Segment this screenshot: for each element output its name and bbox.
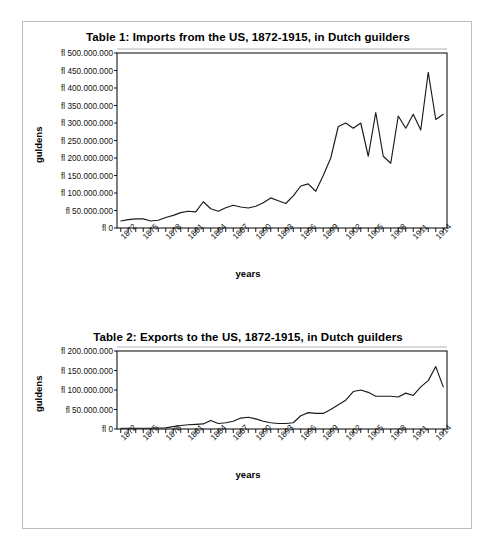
series-line-imports — [121, 72, 444, 221]
y-tick-label: fl 50.000.000 — [66, 405, 113, 414]
chart-title-imports: Table 1: Imports from the US, 1872-1915,… — [23, 24, 473, 43]
y-tick-label: fl 50.000.000 — [66, 206, 113, 215]
chart-title-exports: Table 2: Exports to the US, 1872-1915, i… — [23, 328, 473, 343]
y-tick-label: fl 250.000.000 — [61, 136, 113, 145]
y-axis-ticks-exports: fl 0fl 50.000.000fl 100.000.000fl 150.00… — [23, 343, 113, 453]
y-axis-ticks-imports: fl 0fl 50.000.000fl 100.000.000fl 150.00… — [23, 43, 113, 258]
y-tick-label: fl 500.000.000 — [61, 49, 113, 58]
scan-artifact: · · · · — [60, 2, 400, 10]
y-tick-label: fl 200.000.000 — [61, 154, 113, 163]
y-tick-label: fl 0 — [102, 425, 113, 434]
plot-area-imports: guldens fl 0fl 50.000.000fl 100.000.000f… — [23, 43, 473, 258]
chart-panel-imports: Table 1: Imports from the US, 1872-1915,… — [23, 24, 473, 324]
x-axis-title-imports: years — [23, 268, 473, 279]
y-tick-label: fl 150.000.000 — [61, 171, 113, 180]
x-axis-title-exports: years — [23, 469, 473, 480]
plot-area-exports: guldens fl 0fl 50.000.000fl 100.000.000f… — [23, 343, 473, 453]
y-tick-label: fl 150.000.000 — [61, 366, 113, 375]
y-tick-label: fl 0 — [102, 224, 113, 233]
figure-frame: Table 1: Imports from the US, 1872-1915,… — [22, 21, 472, 529]
chart-panel-exports: Table 2: Exports to the US, 1872-1915, i… — [23, 328, 473, 528]
y-tick-label: fl 200.000.000 — [61, 347, 113, 356]
y-tick-label: fl 450.000.000 — [61, 66, 113, 75]
y-tick-label: fl 300.000.000 — [61, 119, 113, 128]
x-axis-ticks-imports: 1872187518781881188418871890189318961899… — [23, 43, 473, 44]
series-line-exports — [121, 367, 444, 429]
y-tick-label: fl 100.000.000 — [61, 386, 113, 395]
y-tick-label: fl 350.000.000 — [61, 101, 113, 110]
y-tick-label: fl 100.000.000 — [61, 189, 113, 198]
y-tick-label: fl 400.000.000 — [61, 84, 113, 93]
x-axis-ticks-exports: 1872187518781881188418871890189318961899… — [23, 343, 473, 344]
